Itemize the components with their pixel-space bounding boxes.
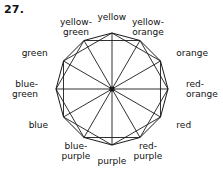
color-label-purple: purple [98,156,127,166]
color-label-yellow: yellow [98,12,127,22]
color-label-blue: blue [29,120,48,130]
wheel-group [56,33,168,145]
color-label-green: green [22,48,48,58]
color-label-red: red [176,120,191,130]
color-wheel-figure: 27. yellowyellow- orangeorangered- orang… [0,0,223,169]
color-label-blue-purple: blue- purple [62,141,91,161]
color-label-blue-green: blue- green [12,79,38,99]
color-label-yellow-green: yellow- green [60,17,92,37]
color-label-yellow-orange: yellow- orange [132,17,164,37]
color-label-red-orange: red- orange [186,79,218,99]
color-label-orange: orange [176,48,208,58]
center-point-marker [109,86,114,91]
color-label-red-purple: red- purple [134,141,163,161]
